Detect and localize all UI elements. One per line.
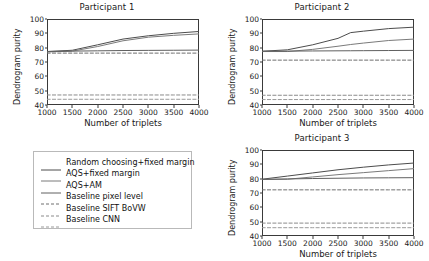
legend-line-swatch bbox=[41, 216, 61, 224]
legend-item-label: Random choosing+fixed margin bbox=[66, 159, 194, 167]
x-tick-label: 4000 bbox=[404, 239, 423, 248]
series-line bbox=[47, 34, 199, 52]
legend-item-label: AQS+fixed margin bbox=[66, 170, 140, 178]
x-tick-label: 1500 bbox=[278, 108, 297, 117]
series-line bbox=[262, 27, 414, 51]
x-tick-label: 2500 bbox=[328, 108, 347, 117]
y-tick-mark bbox=[45, 62, 48, 63]
legend-line-swatch bbox=[41, 193, 61, 201]
legend-item[interactable]: Baseline CNN bbox=[34, 215, 191, 227]
y-tick-mark bbox=[45, 47, 48, 48]
y-tick-label: 80 bbox=[249, 174, 259, 183]
series-line bbox=[47, 31, 199, 51]
x-tick-label: 1500 bbox=[278, 239, 297, 248]
legend-item-label: Baseline pixel level bbox=[66, 193, 143, 201]
x-tick-label: 3000 bbox=[139, 108, 158, 117]
legend-line-swatch bbox=[41, 205, 61, 213]
plot-area: 405060708090100 100015002000250030003500… bbox=[47, 19, 199, 105]
chart-panel-participant-1: Participant 1 Dendrogram purity 40506070… bbox=[0, 2, 214, 132]
y-tick-label: 90 bbox=[249, 160, 259, 169]
x-tick-label: 2500 bbox=[113, 108, 132, 117]
y-tick-label: 70 bbox=[249, 58, 259, 67]
x-tick-label: 4000 bbox=[189, 108, 208, 117]
y-tick-mark bbox=[260, 19, 263, 20]
y-tick-label: 90 bbox=[249, 29, 259, 38]
x-axis-label: Number of triplets bbox=[262, 249, 414, 259]
chart-panel-participant-2: Participant 2 Dendrogram purity 40506070… bbox=[215, 2, 429, 132]
x-tick-label: 2000 bbox=[303, 239, 322, 248]
legend-item[interactable]: Random choosing+fixed margin bbox=[34, 157, 191, 169]
chart-legend: Random choosing+fixed marginAQS+fixed ma… bbox=[33, 151, 192, 229]
legend-item[interactable]: Baseline pixel level bbox=[34, 192, 191, 204]
figure-root: Participant 1 Dendrogram purity 40506070… bbox=[0, 0, 429, 261]
y-tick-label: 80 bbox=[249, 43, 259, 52]
x-tick-label: 1000 bbox=[37, 108, 56, 117]
y-tick-mark bbox=[260, 178, 263, 179]
y-tick-mark bbox=[260, 193, 263, 194]
x-tick-label: 2000 bbox=[303, 108, 322, 117]
plot-area: 405060708090100 100015002000250030003500… bbox=[262, 150, 414, 236]
y-tick-mark bbox=[260, 62, 263, 63]
x-tick-label: 1000 bbox=[252, 239, 271, 248]
x-axis-label: Number of triplets bbox=[47, 118, 199, 128]
plot-area: 405060708090100 100015002000250030003500… bbox=[262, 19, 414, 105]
y-tick-label: 60 bbox=[249, 203, 259, 212]
x-tick-label: 3000 bbox=[354, 239, 373, 248]
series-layer bbox=[262, 150, 414, 236]
series-line bbox=[262, 50, 414, 51]
legend-line-swatch bbox=[41, 182, 61, 190]
y-tick-label: 60 bbox=[249, 72, 259, 81]
legend-item-label: Baseline SIFT BoVW bbox=[66, 205, 146, 213]
y-tick-label: 50 bbox=[34, 86, 44, 95]
chart-title: Participant 2 bbox=[215, 2, 429, 12]
x-tick-label: 3000 bbox=[354, 108, 373, 117]
x-tick-label: 1000 bbox=[252, 108, 271, 117]
y-tick-mark bbox=[260, 47, 263, 48]
y-tick-mark bbox=[45, 33, 48, 34]
x-tick-label: 4000 bbox=[404, 108, 423, 117]
y-tick-label: 60 bbox=[34, 72, 44, 81]
series-layer bbox=[47, 19, 199, 105]
series-line bbox=[262, 163, 414, 179]
y-tick-label: 80 bbox=[34, 43, 44, 52]
y-tick-label: 50 bbox=[249, 217, 259, 226]
y-tick-label: 90 bbox=[34, 29, 44, 38]
y-tick-mark bbox=[260, 207, 263, 208]
legend-item[interactable]: AQS+fixed margin bbox=[34, 169, 191, 181]
y-tick-mark bbox=[260, 76, 263, 77]
y-tick-label: 100 bbox=[245, 146, 259, 155]
legend-item-label: AQS+AM bbox=[66, 182, 102, 190]
x-tick-label: 1500 bbox=[63, 108, 82, 117]
x-tick-label: 2000 bbox=[88, 108, 107, 117]
y-axis-label: Dendrogram purity bbox=[228, 29, 237, 105]
series-layer bbox=[262, 19, 414, 105]
legend-line-swatch bbox=[41, 170, 61, 178]
x-tick-label: 3500 bbox=[379, 239, 398, 248]
y-tick-mark bbox=[260, 164, 263, 165]
y-tick-mark bbox=[260, 150, 263, 151]
x-tick-label: 2500 bbox=[328, 239, 347, 248]
y-tick-label: 50 bbox=[249, 86, 259, 95]
legend-item-label: Baseline CNN bbox=[66, 216, 120, 224]
series-line bbox=[262, 178, 414, 180]
y-tick-label: 70 bbox=[249, 189, 259, 198]
y-tick-mark bbox=[45, 76, 48, 77]
chart-title: Participant 3 bbox=[215, 133, 429, 143]
y-tick-mark bbox=[260, 90, 263, 91]
y-tick-label: 100 bbox=[245, 15, 259, 24]
y-tick-mark bbox=[45, 19, 48, 20]
y-tick-label: 100 bbox=[30, 15, 44, 24]
chart-panel-participant-3: Participant 3 Dendrogram purity 40506070… bbox=[215, 133, 429, 261]
y-tick-mark bbox=[260, 33, 263, 34]
y-tick-mark bbox=[260, 221, 263, 222]
legend-item[interactable]: Baseline SIFT BoVW bbox=[34, 203, 191, 215]
legend-line-swatch bbox=[41, 159, 61, 167]
legend-item[interactable]: AQS+AM bbox=[34, 180, 191, 192]
x-axis-label: Number of triplets bbox=[262, 118, 414, 128]
y-tick-label: 70 bbox=[34, 58, 44, 67]
chart-title: Participant 1 bbox=[0, 2, 214, 12]
y-tick-mark bbox=[45, 90, 48, 91]
y-axis-label: Dendrogram purity bbox=[228, 160, 237, 236]
x-tick-label: 3500 bbox=[379, 108, 398, 117]
y-axis-label: Dendrogram purity bbox=[13, 29, 22, 105]
